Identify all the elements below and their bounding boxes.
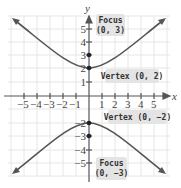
svg-text:1: 1 <box>81 76 87 88</box>
svg-text:−2: −2 <box>56 98 68 110</box>
hyperbola-chart: x y −5 −4 −3 −2 −1 1 2 3 4 5 1 2 3 4 5 −… <box>0 0 181 188</box>
svg-text:−3: −3 <box>43 98 55 110</box>
x-axis-arrow-icon <box>163 93 170 99</box>
callout-vertex-top: Vertex (0, 2) <box>101 69 164 83</box>
svg-text:−5: −5 <box>17 98 29 110</box>
svg-text:−4: −4 <box>30 98 42 110</box>
svg-text:−5: −5 <box>74 157 86 169</box>
vertex-bottom-point <box>87 121 92 126</box>
svg-text:Focus: Focus <box>98 16 122 25</box>
svg-text:−3: −3 <box>74 130 86 142</box>
svg-text:3: 3 <box>125 98 131 110</box>
svg-text:−1: −1 <box>69 98 81 110</box>
svg-text:−4: −4 <box>74 144 86 156</box>
svg-text:5: 5 <box>151 98 157 110</box>
svg-text:Vertex (0, −2): Vertex (0, −2) <box>104 113 171 122</box>
svg-text:(0, −3): (0, −3) <box>95 169 129 178</box>
svg-text:(0, 3): (0, 3) <box>96 26 125 35</box>
callout-focus-top: Focus (0, 3) <box>96 14 125 36</box>
x-axis-label: x <box>171 90 177 102</box>
svg-text:4: 4 <box>138 98 144 110</box>
focus-top-point <box>87 53 92 58</box>
svg-text:Focus: Focus <box>99 159 123 168</box>
svg-text:1: 1 <box>99 98 105 110</box>
focus-bottom-point <box>87 134 92 139</box>
vertex-top-point <box>87 66 92 71</box>
y-axis-arrow-icon <box>86 16 92 23</box>
svg-text:5: 5 <box>81 23 87 35</box>
svg-text:Vertex (0, 2): Vertex (0, 2) <box>101 72 164 81</box>
svg-text:4: 4 <box>81 36 87 48</box>
x-tick-labels: −5 −4 −3 −2 −1 1 2 3 4 5 <box>17 98 157 110</box>
y-axis-label: y <box>84 2 90 14</box>
callout-focus-bottom: Focus (0, −3) <box>95 157 129 180</box>
svg-text:3: 3 <box>81 49 87 61</box>
svg-text:2: 2 <box>112 98 118 110</box>
callout-vertex-bottom: Vertex (0, −2) <box>104 110 171 124</box>
